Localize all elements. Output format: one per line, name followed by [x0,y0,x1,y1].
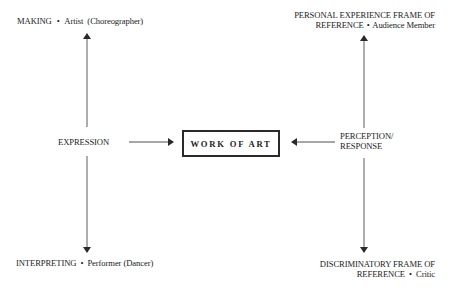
personal-experience-bullet: • [367,20,370,30]
discriminatory-line1: DISCRIMINATORY FRAME OF [320,259,435,269]
perception-line: PERCEPTION/ [340,131,393,141]
personal-experience-line2: REFERENCE • Audience Member [294,20,435,30]
label-interpreting: INTERPRETING • Performer (Dancer) [16,258,153,268]
label-making: MAKING • Artist (Choreographer) [17,16,143,26]
discriminatory-bullet: • [409,269,412,279]
response-line: RESPONSE [340,141,393,151]
personal-experience-line1: PERSONAL EXPERIENCE FRAME OF [294,10,435,20]
making-role: MAKING [17,16,52,26]
making-bullet: • [57,16,60,26]
interpreting-actor: Performer (Dancer) [87,258,153,268]
interpreting-role: INTERPRETING [16,258,76,268]
discriminatory-role: REFERENCE [357,269,405,279]
personal-experience-actor: Audience Member [372,20,435,30]
interpreting-bullet: • [80,258,83,268]
personal-experience-role: REFERENCE [315,20,363,30]
label-perception-response: PERCEPTION/ RESPONSE [340,131,393,152]
work-of-art-box: WORK OF ART [182,130,280,157]
making-actor: Artist (Choreographer) [64,16,143,26]
work-of-art-label: WORK OF ART [190,139,271,149]
label-expression: EXPRESSION [58,137,109,147]
label-personal-experience: PERSONAL EXPERIENCE FRAME OF REFERENCE •… [294,10,435,31]
discriminatory-actor: Critic [416,269,435,279]
discriminatory-line2: REFERENCE • Critic [320,269,435,279]
label-discriminatory: DISCRIMINATORY FRAME OF REFERENCE • Crit… [320,259,435,280]
